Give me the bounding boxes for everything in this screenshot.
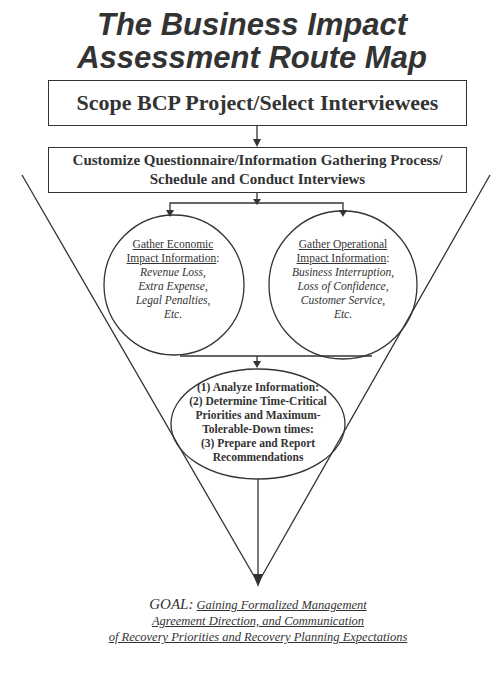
operational-heading-2: Impact Information: — [276, 251, 410, 265]
customize-line-1: Customize Questionnaire/Information Gath… — [73, 151, 443, 170]
goal-line-3: of Recovery Priorities and Recovery Plan… — [80, 629, 436, 645]
analysis-line: Tolerable-Down times: — [178, 422, 338, 436]
analysis-line: Recommendations — [178, 450, 338, 464]
goal-line-2: Agreement Direction, and Communication — [80, 613, 436, 629]
goal-arrow-icon — [253, 574, 263, 587]
goal-line-1: Gaining Formalized Management — [197, 598, 367, 612]
operational-impact-text: Gather Operational Impact Information: B… — [276, 237, 410, 321]
analysis-line: (2) Determine Time-Critical — [178, 394, 338, 408]
goal-label: GOAL: — [149, 596, 193, 612]
analysis-line: (1) Analyze Information: — [178, 380, 338, 394]
operational-item: Etc. — [276, 307, 410, 321]
economic-heading-1: Gather Economic — [108, 237, 238, 251]
scope-project-label: Scope BCP Project/Select Interviewees — [77, 90, 439, 116]
economic-item: Extra Expense, — [108, 279, 238, 293]
economic-item: Legal Penalties, — [108, 293, 238, 307]
operational-heading-1: Gather Operational — [276, 237, 410, 251]
analysis-line: Priorities and Maximum- — [178, 408, 338, 422]
operational-item: Loss of Confidence, — [276, 279, 410, 293]
economic-item: Etc. — [108, 307, 238, 321]
scope-project-box: Scope BCP Project/Select Interviewees — [48, 80, 467, 126]
economic-heading-2: Impact Information: — [108, 251, 238, 265]
goal-statement: GOAL: Gaining Formalized Management Agre… — [80, 596, 436, 645]
analysis-text: (1) Analyze Information: (2) Determine T… — [178, 380, 338, 464]
customize-line-2: Schedule and Conduct Interviews — [150, 170, 365, 189]
operational-item: Customer Service, — [276, 293, 410, 307]
analysis-line: (3) Prepare and Report — [178, 436, 338, 450]
customize-questionnaire-box: Customize Questionnaire/Information Gath… — [48, 147, 467, 193]
operational-item: Business Interruption, — [276, 265, 410, 279]
economic-impact-text: Gather Economic Impact Information: Reve… — [108, 237, 238, 321]
economic-item: Revenue Loss, — [108, 265, 238, 279]
